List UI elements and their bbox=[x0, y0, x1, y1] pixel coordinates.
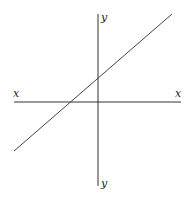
x-label-left: x bbox=[13, 87, 20, 100]
y-label-top: y bbox=[100, 11, 108, 24]
x-label-right: x bbox=[175, 87, 182, 100]
coordinate-diagram: x x y y bbox=[0, 0, 189, 197]
y-label-bottom: y bbox=[100, 177, 108, 190]
sloped-line bbox=[14, 14, 172, 151]
